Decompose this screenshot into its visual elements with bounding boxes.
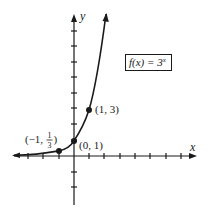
function-label-box: f(x) = 3x bbox=[126, 55, 172, 71]
function-label-text: f(x) = 3 bbox=[129, 56, 163, 69]
svg-text:(−1,: (−1, bbox=[25, 133, 43, 146]
point-neg1-marker bbox=[56, 148, 62, 154]
point-1-marker bbox=[86, 107, 92, 113]
point-0-marker bbox=[71, 138, 77, 144]
svg-text:f(x) = 3x: f(x) = 3x bbox=[129, 56, 167, 69]
graph: y x (1, 3) (0, 1) (−1, 1 3 ) f(x) = 3x bbox=[0, 0, 208, 218]
svg-text:3: 3 bbox=[48, 141, 52, 150]
point-neg1-label: (−1, 1 3 ) bbox=[25, 131, 58, 150]
point-1-label: (1, 3) bbox=[95, 103, 119, 116]
y-axis-label: y bbox=[79, 9, 86, 23]
curve-arrow-left bbox=[12, 153, 20, 158]
y-axis bbox=[71, 14, 77, 205]
x-axis-label: x bbox=[189, 140, 196, 154]
point-0-label: (0, 1) bbox=[79, 139, 103, 152]
svg-text:1: 1 bbox=[48, 131, 52, 140]
svg-text:): ) bbox=[54, 133, 58, 146]
